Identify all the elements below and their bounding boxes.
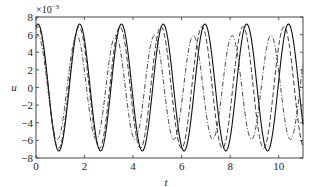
y-tick-label: 0	[28, 82, 34, 94]
x-axis-label: t	[164, 176, 168, 187]
y-axis-label: u	[11, 81, 17, 93]
data-curves	[36, 24, 303, 151]
y-scale-exponent: −3	[52, 3, 60, 11]
series-dashed	[36, 27, 303, 149]
x-tick-label: 10	[273, 160, 285, 172]
y-tick-label: 2	[28, 64, 34, 76]
y-tick-label: −8	[21, 152, 33, 164]
chart: 0246810 86420−2−4−6−8 t u ×10−3	[0, 0, 312, 187]
y-scale-multiplier: ×10−3	[36, 3, 60, 15]
x-tick-label: 6	[179, 160, 185, 172]
series-solid	[36, 24, 303, 151]
y-tick-label: 6	[28, 29, 34, 41]
x-tick-label: 4	[130, 160, 136, 172]
y-tick-label: −2	[21, 99, 33, 111]
y-tick-label: 8	[28, 11, 34, 23]
y-tick-label: −6	[21, 134, 33, 146]
y-tick-label: −4	[21, 117, 33, 129]
x-tick-label: 2	[82, 160, 88, 172]
y-tick-label: 4	[28, 46, 34, 58]
x-tick-label: 8	[227, 160, 233, 172]
y-axis-ticks: 86420−2−4−6−8	[21, 11, 303, 164]
x-axis-ticks: 0246810	[33, 17, 284, 172]
x-tick-label: 0	[33, 160, 39, 172]
